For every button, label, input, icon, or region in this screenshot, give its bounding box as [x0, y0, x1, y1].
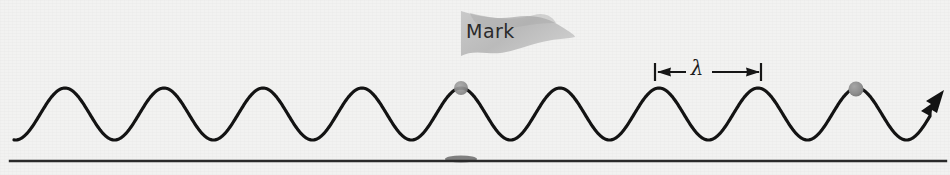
wavelength-annotation	[655, 63, 761, 81]
wavelength-right-arrowhead	[746, 68, 760, 77]
mark-flag-label: Mark	[466, 20, 515, 42]
wavelength-symbol-label: λ	[691, 56, 704, 80]
propagation-arrow-icon	[921, 90, 944, 116]
wave-particle-dot-at-flag	[454, 81, 468, 95]
wave-particle-dot-right	[849, 82, 864, 97]
wavelength-left-arrowhead	[657, 68, 671, 77]
wave-diagram-figure: Mark λ	[0, 0, 950, 175]
wave-curve	[14, 88, 930, 140]
